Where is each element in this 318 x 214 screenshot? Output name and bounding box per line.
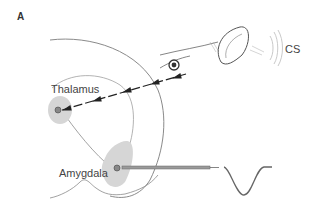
fear-conditioning-diagram bbox=[0, 0, 318, 214]
electrode-icon bbox=[122, 166, 219, 169]
amygdala-label: Amygdala bbox=[59, 168, 108, 179]
amygdala-region bbox=[102, 141, 133, 187]
cs-label: CS bbox=[285, 44, 300, 55]
thalamus-label: Thalamus bbox=[51, 84, 99, 95]
amygdala-neuron-icon bbox=[114, 165, 120, 171]
spike-waveform-icon bbox=[224, 167, 272, 195]
eye-icon bbox=[169, 60, 179, 70]
sound-waves-icon bbox=[270, 30, 283, 66]
panel-letter: A bbox=[17, 12, 24, 22]
ear-icon bbox=[218, 27, 248, 64]
thalamus-neuron-icon bbox=[55, 107, 61, 113]
